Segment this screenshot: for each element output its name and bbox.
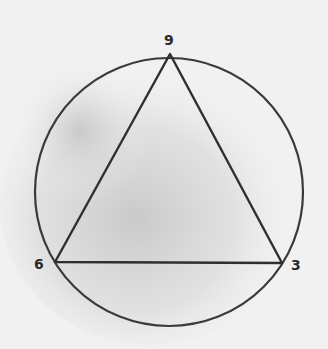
vertex-label-right: 3 [291,258,301,272]
diagram-canvas: 9 6 3 [0,0,328,349]
vertex-label-top: 9 [164,33,174,47]
vertex-label-left: 6 [34,257,44,271]
circle-triangle-figure [0,0,328,349]
